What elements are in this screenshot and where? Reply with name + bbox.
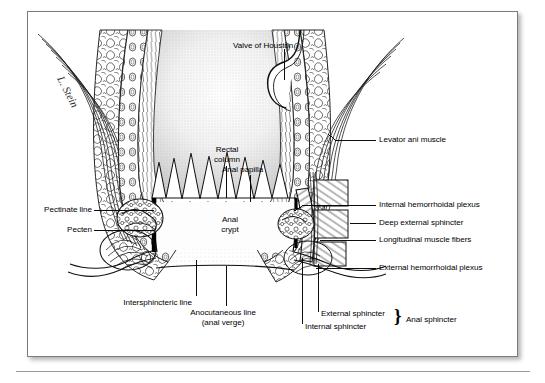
label-rectal-column-line2: column <box>204 155 250 165</box>
label-longitudinal-muscle-fibers: Longitudinal muscle fibers <box>379 235 471 245</box>
label-anal-papilla: Anal papilla <box>222 165 263 175</box>
label-external-sphincter: External sphincter <box>321 309 385 319</box>
label-external-hemorrhoidal-plexus: External hemorrhoidal plexus <box>379 263 482 273</box>
label-pecten: Pecten <box>27 225 92 235</box>
label-anocutaneous-line-line2: (anal verge) <box>158 318 288 328</box>
label-pectinate-line: Pectinate line <box>27 205 92 215</box>
label-intersphincteric-line: Intersphincteric line <box>72 298 192 308</box>
figure-plate: Valve of Houston Levator ani muscle Rect… <box>27 11 518 357</box>
label-deep-external-sphincter: Deep external sphincter <box>379 218 463 228</box>
label-internal-hemorrhoidal-plexus: Internal hemorrhoidal plexus <box>379 200 480 210</box>
label-rectal-column-line1: Rectal <box>204 145 250 155</box>
label-anal-crypt-line2: crypt <box>208 225 252 235</box>
label-anal-crypt-line1: Anal <box>208 215 252 225</box>
label-valve-of-houston: Valve of Houston <box>233 41 293 51</box>
label-internal-sphincter: Internal sphincter <box>305 322 366 332</box>
label-levator-ani-muscle: Levator ani muscle <box>379 135 446 145</box>
footer-rule <box>16 371 530 372</box>
page-root: Valve of Houston Levator ani muscle Rect… <box>0 0 545 383</box>
label-anocutaneous-line-line1: Anocutaneous line <box>158 308 288 318</box>
anal-sphincter-brace: } <box>394 306 402 325</box>
label-anal-sphincter: Anal sphincter <box>406 315 457 325</box>
anatomy-illustration: Valve of Houston Levator ani muscle Rect… <box>28 12 517 356</box>
